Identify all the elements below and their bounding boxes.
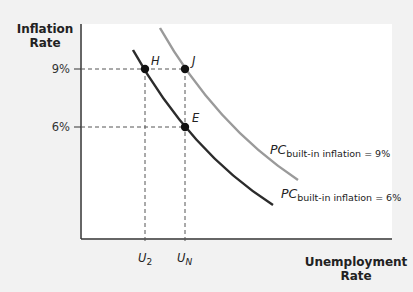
x-axis-title-line1: Unemployment [305,255,408,269]
pc6-label: PCbuilt-in inflation = 6% [281,186,401,203]
point-e [181,123,189,131]
x-tick-un: UN [177,251,192,267]
phillips-curve-chart: Inflation Rate Unemployment Rate 9% 6% U… [0,0,413,292]
pc-curve-9 [160,28,298,180]
x-tick-u2: U2 [138,251,152,267]
x-axis-title-line2: Rate [340,269,371,283]
point-j [181,65,189,73]
point-e-label: E [192,111,200,125]
y-tick-label-6: 6% [52,120,70,134]
point-j-label: J [190,54,196,68]
point-h [141,65,149,73]
y-axis-title-line2: Rate [29,36,60,50]
y-tick-label-9: 9% [52,62,70,76]
y-axis-title-line1: Inflation [17,22,74,36]
guide-lines [81,69,185,244]
pc9-label: PCbuilt-in inflation = 9% [270,142,390,159]
point-h-label: H [151,54,160,68]
